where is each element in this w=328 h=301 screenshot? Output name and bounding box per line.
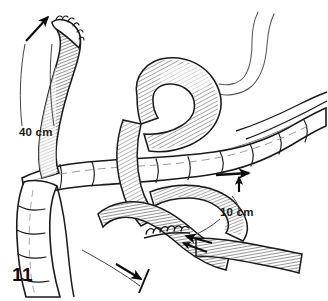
measurement-label-10cm: 10 cm <box>220 207 254 219</box>
figure-number: 11 <box>12 265 33 284</box>
measurement-label-40cm: 40 cm <box>19 127 53 139</box>
figure-container: 40 cm 10 cm 11 <box>0 0 328 301</box>
surgical-illustration <box>0 0 328 301</box>
